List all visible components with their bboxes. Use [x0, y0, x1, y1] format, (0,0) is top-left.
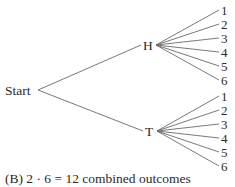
- leaf-h-2: 2: [221, 17, 228, 32]
- leaf-h-3: 3: [221, 31, 228, 46]
- leaf-h-5: 5: [221, 59, 228, 74]
- leaf-t-6: 6: [221, 159, 228, 174]
- leaf-h-6: 6: [221, 73, 228, 88]
- node-h: H: [143, 38, 153, 53]
- leaf-t-2: 2: [221, 103, 228, 118]
- tree-labels: StartH123456T123456: [5, 3, 228, 174]
- figure-caption: (B) 2 · 6 = 12 combined outcomes: [5, 171, 191, 187]
- leaf-t-4: 4: [221, 131, 228, 146]
- edge-start-t: [38, 90, 143, 131]
- leaf-h-1: 1: [221, 3, 228, 18]
- tree-edges: [38, 10, 219, 166]
- edge-start-h: [38, 45, 141, 90]
- leaf-t-1: 1: [221, 89, 228, 104]
- node-start: Start: [5, 83, 31, 98]
- node-t: T: [145, 124, 154, 139]
- tree-diagram: StartH123456T123456: [0, 0, 235, 187]
- leaf-t-5: 5: [221, 145, 228, 160]
- leaf-h-4: 4: [221, 45, 228, 60]
- leaf-t-3: 3: [221, 117, 228, 132]
